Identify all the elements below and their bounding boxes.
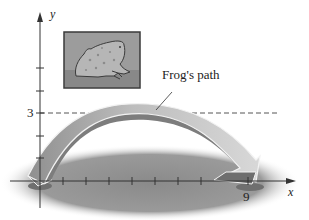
x-axis-label: x <box>288 186 293 198</box>
frog-picture <box>64 32 140 88</box>
x-tick-label-9: 9 <box>243 190 250 203</box>
frog-jump-diagram <box>0 0 309 220</box>
y-axis-label: y <box>50 8 55 20</box>
y-tick-label-3: 3 <box>27 106 34 119</box>
frogs-path-annotation: Frog's path <box>162 68 220 81</box>
y-axis-arrow-icon <box>37 12 43 22</box>
